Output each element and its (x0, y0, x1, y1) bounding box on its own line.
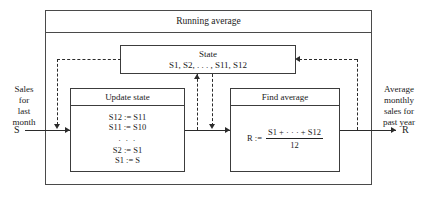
update-state-line-1: S12 := S11 (109, 112, 147, 123)
outer-system-title-label: Running average (176, 16, 241, 26)
find-average-title: Find average (231, 89, 339, 106)
output-flow-arrowhead (391, 127, 396, 133)
state-to-find-arrowhead (209, 124, 215, 129)
update-state-line-5: S1 := S (115, 155, 140, 166)
diagram-canvas: Running average Sales for last month S A… (0, 0, 422, 199)
outer-system-title: Running average (45, 10, 372, 33)
state-to-input-arrowhead (54, 124, 60, 129)
update-to-state-dashed-vertical (197, 74, 198, 130)
input-caption-line-4: month (2, 117, 46, 128)
output-caption-line-1: Average (376, 84, 422, 95)
find-average-fraction: S1 + · · · + S12 12 (266, 127, 323, 151)
update-state-box: Update state S12 := S11 S11 := S10 . . .… (70, 88, 185, 172)
output-to-state-dashed-vertical (357, 59, 358, 130)
input-caption-line-2: for (2, 95, 46, 106)
input-flow-line (25, 130, 70, 131)
find-average-numerator: S1 + · · · + S12 (266, 127, 323, 140)
update-state-line-4: S2 := S1 (113, 145, 142, 156)
output-to-state-dashed-horizontal (299, 59, 357, 60)
state-to-input-dashed-vertical (57, 59, 58, 125)
update-to-find-flow-line (185, 130, 230, 131)
find-average-formula: R := S1 + · · · + S12 12 (247, 127, 323, 151)
output-caption-line-2: monthly (376, 95, 422, 106)
output-caption-line-3: sales for (376, 106, 422, 117)
output-caption: Average monthly sales for past year (376, 84, 422, 128)
input-caption-line-3: last (2, 106, 46, 117)
output-caption-line-4: past year (376, 117, 422, 128)
update-to-find-arrowhead (225, 127, 230, 133)
update-state-title: Update state (71, 89, 184, 106)
find-average-assign: R := (247, 133, 262, 144)
find-average-box: Find average R := S1 + · · · + S12 12 (230, 88, 340, 172)
state-box: State S1, S2, . . . , S11, S12 (120, 45, 296, 74)
input-symbol: S (14, 124, 20, 135)
state-to-input-dashed-horizontal (57, 59, 121, 60)
update-state-line-2: S11 := S10 (109, 122, 147, 133)
state-box-content: State S1, S2, . . . , S11, S12 (121, 46, 295, 73)
output-symbol: R (402, 124, 409, 135)
state-box-title: State (199, 49, 217, 60)
input-caption-line-1: Sales (2, 84, 46, 95)
update-to-state-arrowhead (194, 74, 200, 79)
find-average-denominator: 12 (290, 139, 299, 151)
update-state-ellipsis: . . . (118, 133, 136, 145)
state-to-find-dashed-vertical (212, 74, 213, 126)
find-average-body: R := S1 + · · · + S12 12 (231, 106, 339, 171)
input-caption: Sales for last month (2, 84, 46, 128)
update-state-body: S12 := S11 S11 := S10 . . . S2 := S1 S1 … (71, 106, 184, 171)
state-box-contents: S1, S2, . . . , S11, S12 (169, 60, 247, 71)
output-to-state-arrowhead (295, 56, 300, 62)
output-flow-line (340, 130, 396, 131)
